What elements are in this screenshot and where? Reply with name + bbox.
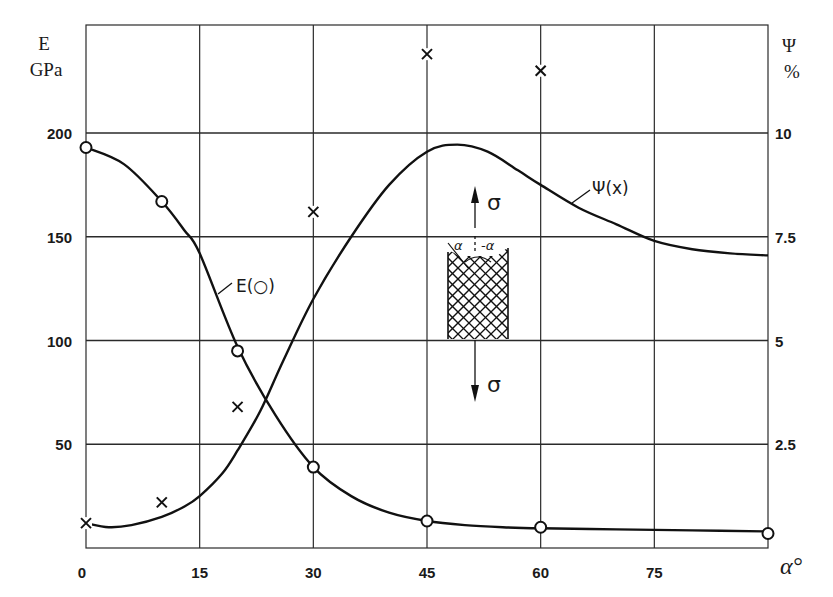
inset-specimen-diagram: α -α σ σ [255,186,705,402]
y-right-tick-label: 7.5 [775,229,796,246]
sigma-top-label: σ [487,190,501,215]
grid [86,25,768,548]
y-right-tick-label: 5 [775,333,783,350]
circle-marker-icon [535,522,546,533]
y-left-tick-label: 150 [47,229,72,246]
right-axis-symbol: Ψ [782,35,796,56]
circle-marker-icon [422,516,433,527]
x-tick-label: 60 [532,564,549,581]
arrow-down-icon [471,385,479,402]
left-axis-unit: GPa [30,59,63,80]
inset-minus-alpha-label: -α [481,238,495,253]
x-tick-label: 45 [419,564,436,581]
arrow-up-icon [471,186,479,203]
circle-marker-icon [81,142,92,153]
chart: 01530456075501001502002.557.510 E GPa Ψ … [0,0,833,597]
circle-marker-icon [763,528,774,539]
right-axis-unit: % [784,61,800,82]
y-left-tick-label: 50 [55,436,72,453]
circle-marker-icon [308,462,319,473]
y-right-tick-label: 2.5 [775,436,796,453]
y-left-tick-label: 200 [47,125,72,142]
cross-marker-icon [156,496,168,508]
circle-marker-icon [156,196,167,207]
inset-alpha-label: α [454,238,463,253]
cross-marker-icon [232,401,244,413]
circle-marker-icon [232,345,243,356]
svg-text:Ψ(x): Ψ(x) [592,178,629,198]
cross-marker-icon [80,517,92,529]
sigma-bottom-label: σ [487,372,501,397]
cross-marker-icon [307,206,319,218]
svg-text:E(○): E(○) [236,276,275,296]
cross-marker-icon [421,48,433,60]
psi-curve-label: Ψ(x) [572,178,629,203]
x-tick-label: 30 [305,564,322,581]
x-axis-label: α° [780,553,803,579]
e-curve-label: E(○) [218,276,275,296]
axis-ticks: 01530456075501001502002.557.510 [47,125,796,581]
y-left-tick-label: 100 [47,333,72,350]
x-tick-label: 15 [191,564,208,581]
cross-marker-icon [535,65,547,77]
left-axis-symbol: E [38,33,50,54]
y-right-tick-label: 10 [775,125,792,142]
x-tick-label: 75 [646,564,663,581]
x-tick-label: 0 [78,564,86,581]
